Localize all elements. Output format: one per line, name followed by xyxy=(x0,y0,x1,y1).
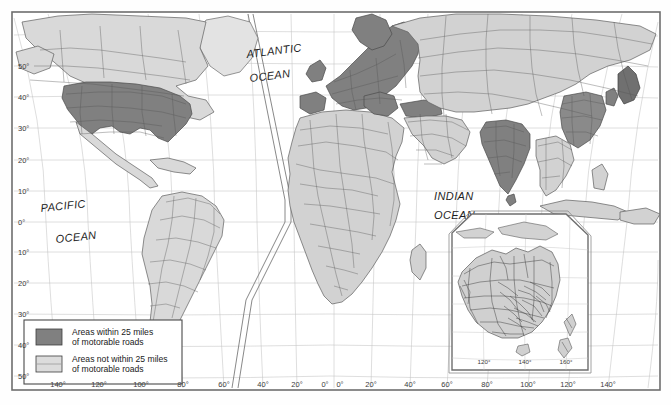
landmass-iberia xyxy=(300,92,326,114)
lon-label-140e: 140° xyxy=(600,380,616,389)
indian-line1: INDIAN xyxy=(434,190,474,202)
lat-label-10n: 10° xyxy=(18,187,29,196)
lat-label-40n: 40° xyxy=(18,93,29,102)
lon-label-120e: 120° xyxy=(560,380,576,389)
lat-label-30s: 30° xyxy=(18,310,29,319)
lon-label-40e: 40° xyxy=(404,380,415,389)
lat-label-10s: 10° xyxy=(18,248,29,257)
lon-label-80w: 80° xyxy=(177,380,188,389)
lat-label-40s: 40° xyxy=(18,341,29,350)
lat-label-0: 0° xyxy=(18,218,25,227)
lon-label-140w: 140° xyxy=(50,380,66,389)
lon-label-80e: 80° xyxy=(481,380,492,389)
lon-label-60e: 60° xyxy=(441,380,452,389)
inset-lon-label-160: 160° xyxy=(560,358,573,365)
lat-label-30n: 30° xyxy=(18,124,29,133)
lat-label-20s: 20° xyxy=(18,279,29,288)
lon-label-120w: 120° xyxy=(91,380,107,389)
australia-inset: 120° 140° 160° xyxy=(449,211,591,373)
lon-label-100e: 100° xyxy=(520,380,536,389)
legend-swatch-near xyxy=(36,329,62,345)
lon-label-20w: 20° xyxy=(291,380,302,389)
legend-label-far-line2: of motorable roads xyxy=(72,364,144,374)
lon-label-40w: 40° xyxy=(257,380,268,389)
lon-label-60w: 60° xyxy=(218,380,229,389)
lat-label-50s: 50° xyxy=(18,372,29,381)
lat-label-20n: 20° xyxy=(18,156,29,165)
lat-label-50n: 50° xyxy=(18,62,29,71)
lon-label-0a: 0° xyxy=(321,380,328,389)
lon-label-20e: 20° xyxy=(365,380,376,389)
legend-label-near-line1: Areas within 25 miles xyxy=(72,327,153,337)
lon-label-100w: 100° xyxy=(133,380,149,389)
legend-label-far-line1: Areas not within 25 miles xyxy=(72,354,168,364)
lon-label-0b: 0° xyxy=(336,380,343,389)
inset-lon-label-120: 120° xyxy=(478,358,491,365)
legend-label-near-line2: of motorable roads xyxy=(72,337,144,347)
inset-lon-label-140: 140° xyxy=(519,358,532,365)
world-map: ATLANTIC OCEAN PACIFIC OCEAN INDIAN OCEA… xyxy=(0,0,671,405)
map-legend: Areas within 25 miles of motorable roads… xyxy=(24,320,182,384)
